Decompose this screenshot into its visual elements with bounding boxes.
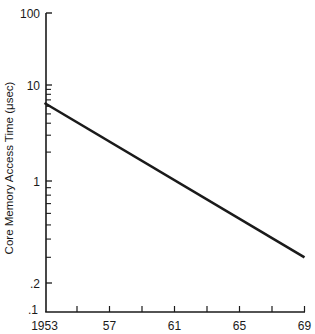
- series-line: [45, 103, 305, 257]
- y-tick-label: 100: [20, 7, 40, 21]
- axes: [45, 13, 305, 312]
- y-tick-label: 1: [33, 175, 40, 189]
- y-ticks: [46, 85, 52, 283]
- series: [45, 103, 305, 257]
- x-ticks: [77, 306, 305, 312]
- y-tick-labels: 100101.2.1: [20, 7, 40, 318]
- x-tick-label: 1953: [31, 319, 58, 333]
- y-tick-label: .2: [30, 277, 40, 291]
- x-tick-labels: 195357616569: [31, 319, 311, 333]
- x-tick-label: 61: [168, 319, 182, 333]
- y-axis-title: Core Memory Access Time (μsec): [3, 81, 15, 254]
- y-tick-label: .1: [28, 303, 38, 317]
- x-tick-label: 57: [103, 319, 117, 333]
- x-tick-label: 65: [233, 319, 247, 333]
- x-tick-label: 69: [298, 319, 312, 333]
- y-tick-label: 10: [27, 79, 41, 93]
- chart: 100101.2.1 195357616569 Core Memory Acce…: [0, 0, 315, 334]
